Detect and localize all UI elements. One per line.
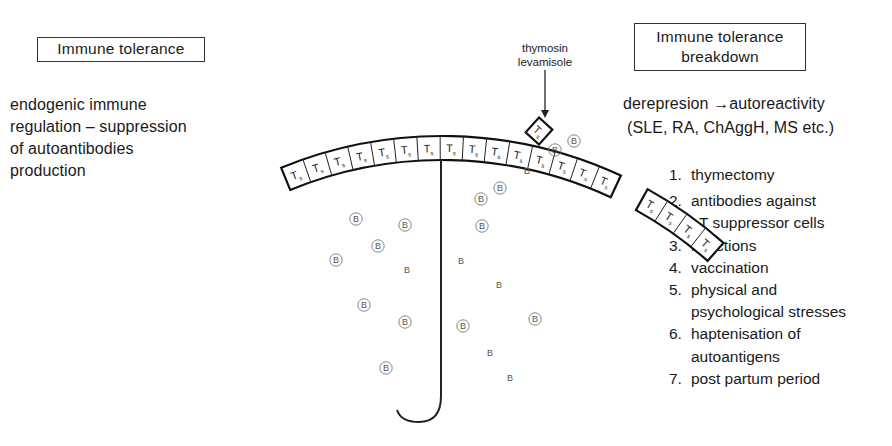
svg-text:B: B [552, 145, 558, 155]
svg-text:B: B [460, 321, 466, 331]
svg-text:s: s [453, 150, 456, 156]
svg-text:B: B [353, 214, 359, 224]
b-cell: B [399, 316, 411, 328]
svg-text:B: B [402, 220, 408, 230]
b-cell: B [475, 193, 487, 205]
svg-text:B: B [497, 183, 503, 193]
svg-text:B: B [571, 136, 577, 146]
svg-text:B: B [507, 373, 513, 383]
svg-text:B: B [487, 348, 493, 358]
svg-text:B: B [524, 166, 530, 176]
b-cell: B [330, 254, 342, 266]
svg-text:B: B [383, 363, 389, 373]
b-cell: B [457, 320, 469, 332]
b-cell: B [496, 280, 502, 290]
svg-text:B: B [532, 314, 538, 324]
svg-text:B: B [479, 221, 485, 231]
b-cell: B [358, 299, 370, 311]
diagram-stem-line [397, 161, 441, 422]
b-cell: B [399, 219, 411, 231]
down-arrow-icon [541, 70, 549, 118]
svg-text:B: B [458, 256, 464, 266]
b-cell: B [476, 220, 488, 232]
detached-t-cell-segment: TsTsTsTs [636, 189, 724, 261]
b-cell: B [380, 362, 392, 374]
svg-text:B: B [402, 317, 408, 327]
svg-text:B: B [361, 300, 367, 310]
b-cell: B [372, 240, 384, 252]
b-cell: B [568, 135, 580, 147]
b-cell: B [404, 265, 410, 275]
t-suppressor-arc-diagram: TsTsTsTsTsTsTsTsTsTsTsTsTsTsTs TsTsTsTs … [0, 0, 892, 446]
b-cell: B [494, 182, 506, 194]
svg-text:B: B [478, 194, 484, 204]
svg-text:s: s [408, 151, 412, 157]
svg-text:B: B [404, 265, 410, 275]
svg-text:B: B [375, 241, 381, 251]
svg-text:s: s [430, 150, 433, 156]
single-t-suppressor-cell: Ts [526, 118, 553, 145]
b-cell: B [524, 166, 530, 176]
svg-text:s: s [475, 151, 478, 157]
svg-text:B: B [333, 255, 339, 265]
b-cell: B [350, 213, 362, 225]
b-cell: B [529, 313, 541, 325]
b-cell: B [458, 256, 464, 266]
b-cell: B [507, 373, 513, 383]
b-cell: B [487, 348, 493, 358]
svg-text:B: B [496, 280, 502, 290]
